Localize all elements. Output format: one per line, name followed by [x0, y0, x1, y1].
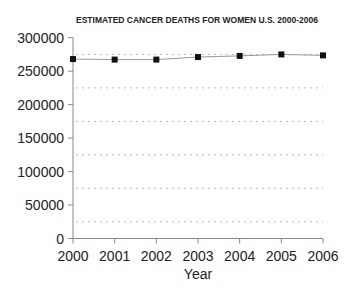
x-tick-label: 2002 [141, 248, 172, 264]
data-point-marker [70, 56, 76, 62]
y-tick-label: 250000 [17, 63, 64, 79]
x-axis-ticks: 2000200120022003200420052006 [57, 239, 338, 264]
y-axis-ticks: 050000100000150000200000250000300000 [17, 30, 73, 247]
data-point-marker [153, 57, 159, 63]
data-point-marker [278, 51, 284, 57]
y-tick-label: 200000 [17, 97, 64, 113]
gridlines [76, 54, 323, 221]
x-tick-label: 2003 [182, 248, 213, 264]
y-tick-label: 150000 [17, 130, 64, 146]
x-tick-label: 2004 [224, 248, 255, 264]
x-axis-label: Year [184, 266, 213, 282]
data-series [70, 51, 326, 62]
line-chart: ESTIMATED CANCER DEATHS FOR WOMEN U.S. 2… [0, 0, 359, 293]
chart-title: ESTIMATED CANCER DEATHS FOR WOMEN U.S. 2… [76, 15, 318, 25]
y-tick-label: 300000 [17, 30, 64, 46]
y-tick-label: 50000 [25, 197, 64, 213]
x-tick-label: 2006 [307, 248, 338, 264]
data-point-marker [320, 52, 326, 58]
axes [73, 38, 323, 239]
data-point-marker [237, 53, 243, 59]
y-tick-label: 0 [56, 231, 64, 247]
y-tick-label: 100000 [17, 164, 64, 180]
data-point-marker [112, 57, 118, 63]
x-tick-label: 2005 [266, 248, 297, 264]
x-tick-label: 2001 [99, 248, 130, 264]
x-tick-label: 2000 [57, 248, 88, 264]
data-point-marker [195, 54, 201, 60]
